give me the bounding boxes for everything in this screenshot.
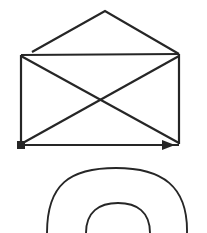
envelope-flap-triangle: [32, 11, 179, 54]
direction-arrowhead-icon: [162, 140, 175, 150]
inner-arch-curve: [86, 203, 150, 233]
line-drawing-svg: [0, 0, 207, 233]
envelope-top-edge: [21, 54, 179, 55]
start-square-marker: [17, 141, 25, 149]
outer-arch-curve: [47, 168, 187, 233]
figure-canvas: [0, 0, 207, 233]
arch-curves-group: [47, 168, 187, 233]
envelope-shape-group: [17, 11, 179, 150]
